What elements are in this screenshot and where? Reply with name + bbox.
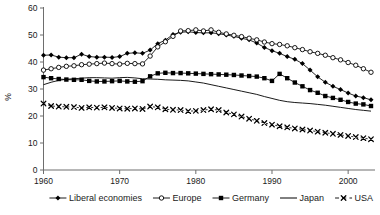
marker-open-circle [159,196,163,200]
marker-filled-diamond [262,45,267,50]
marker-open-circle [87,62,91,66]
marker-filled-square [110,79,114,83]
marker-open-circle [79,62,83,66]
marker-filled-diamond [94,55,99,60]
marker-filled-square [300,84,304,88]
marker-open-circle [232,33,236,37]
marker-filled-diamond [330,84,335,89]
x-tick-label: 1970 [110,176,129,186]
marker-open-circle [95,61,99,65]
series-path [44,104,372,140]
marker-open-circle [156,45,160,49]
marker-cross-x [216,108,221,113]
marker-filled-diamond [140,51,145,56]
marker-filled-diamond [55,196,60,201]
marker-open-circle [163,40,167,44]
marker-filled-square [354,101,358,105]
marker-open-circle [300,47,304,51]
marker-open-circle [255,38,259,42]
marker-filled-square [219,196,223,200]
legend-item-label: Liberal economies [69,193,143,203]
series-europe [41,28,373,75]
marker-filled-square [201,72,205,76]
y-tick-label: 30 [28,84,38,94]
marker-filled-square [194,71,198,75]
marker-filled-square [125,79,129,83]
marker-cross-x [270,122,275,127]
y-tick-label: 0 [33,165,38,175]
marker-filled-square [293,80,297,84]
marker-filled-diamond [353,94,358,99]
marker-open-circle [72,64,76,68]
marker-cross-x [171,107,176,112]
marker-filled-square [285,76,289,80]
marker-filled-diamond [49,52,54,57]
legend-item-label: Japan [300,193,325,203]
marker-open-circle [102,61,106,65]
marker-open-circle [117,62,121,66]
marker-filled-square [277,72,281,76]
line-chart: 010203040506019601970198019902000%Libera… [0,0,380,215]
marker-filled-square [323,94,327,98]
marker-filled-square [102,79,106,83]
marker-open-circle [110,61,114,65]
y-tick-label: 20 [28,111,38,121]
marker-filled-square [216,72,220,76]
x-tick-label: 2000 [339,176,358,186]
marker-open-circle [57,65,61,69]
marker-filled-square [171,71,175,75]
marker-filled-diamond [269,48,274,53]
marker-filled-square [331,96,335,100]
marker-filled-diamond [102,55,107,60]
marker-open-circle [270,41,274,45]
marker-filled-square [156,71,160,75]
y-axis-title: % [3,93,13,101]
marker-cross-x [239,114,244,119]
marker-filled-square [87,79,91,83]
marker-filled-square [209,72,213,76]
marker-open-circle [133,61,137,65]
series-germany [41,71,373,109]
marker-open-circle [41,68,45,72]
marker-filled-square [224,72,228,76]
legend-item-label: Germany [232,193,270,203]
marker-filled-square [49,76,53,80]
marker-filled-square [338,98,342,102]
series-path [44,30,372,72]
marker-filled-square [239,73,243,77]
marker-filled-square [308,88,312,92]
marker-filled-square [369,104,373,108]
x-tick-label: 1980 [186,176,205,186]
chart-legend: Liberal economiesEuropeGermanyJapanUSA [49,193,373,203]
marker-open-circle [323,53,327,57]
marker-filled-square [247,74,251,78]
marker-cross-x [293,126,298,131]
y-tick-label: 40 [28,57,38,67]
marker-open-circle [277,42,281,46]
marker-filled-diamond [292,57,297,62]
marker-filled-square [186,71,190,75]
marker-filled-square [270,79,274,83]
marker-open-circle [247,36,251,40]
marker-filled-square [95,79,99,83]
marker-filled-square [41,75,45,79]
marker-open-circle [64,64,68,68]
marker-cross-x [133,106,138,111]
marker-open-circle [49,67,53,71]
marker-open-circle [194,28,198,32]
marker-cross-x [209,107,214,112]
marker-cross-x [95,105,100,110]
legend-item-label: USA [355,193,374,203]
series-usa [41,101,373,141]
marker-filled-square [148,74,152,78]
marker-open-circle [201,29,205,33]
marker-cross-x [331,132,336,137]
marker-cross-x [254,119,259,124]
marker-filled-square [133,80,137,84]
chart-container: 010203040506019601970198019902000%Libera… [0,0,380,215]
marker-open-circle [262,40,266,44]
marker-cross-x [224,110,229,115]
marker-filled-diamond [87,54,92,59]
marker-open-circle [354,63,358,67]
x-tick-label: 1990 [263,176,282,186]
